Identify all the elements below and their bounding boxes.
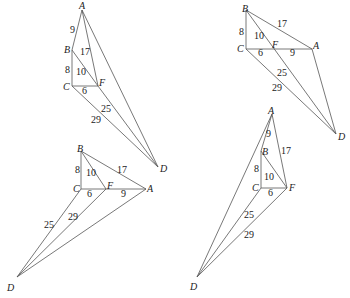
point-label-B: B bbox=[77, 143, 83, 154]
segment-AD bbox=[82, 10, 158, 167]
length-label: 8 bbox=[75, 164, 80, 175]
point-label-D: D bbox=[6, 282, 15, 293]
point-label-F: F bbox=[106, 180, 114, 191]
segment-BD bbox=[246, 10, 336, 134]
segment-FD bbox=[197, 188, 287, 277]
length-label: 9 bbox=[290, 47, 295, 58]
point-label-D: D bbox=[159, 163, 168, 174]
segment-AD bbox=[312, 49, 336, 134]
length-label: 8 bbox=[239, 26, 244, 37]
segment-CD bbox=[246, 49, 336, 134]
length-label: 29 bbox=[68, 211, 78, 222]
length-label: 10 bbox=[254, 30, 264, 41]
figure-bottom-right: ABCFD91781062529 bbox=[189, 105, 296, 292]
segment-CD bbox=[72, 86, 158, 167]
length-label: 25 bbox=[101, 103, 111, 114]
length-label: 25 bbox=[277, 67, 287, 78]
length-label: 17 bbox=[80, 46, 90, 57]
point-label-C: C bbox=[252, 182, 259, 193]
length-label: 17 bbox=[277, 18, 287, 29]
length-label: 25 bbox=[244, 209, 254, 220]
length-label: 29 bbox=[244, 229, 254, 240]
figure-bottom-left: BCFAD81710692925 bbox=[6, 143, 154, 293]
segment-AD bbox=[17, 189, 146, 277]
segment-CD bbox=[17, 189, 81, 277]
point-label-D: D bbox=[189, 281, 198, 292]
segment-AD bbox=[197, 114, 272, 277]
length-label: 17 bbox=[117, 164, 127, 175]
point-label-B: B bbox=[64, 44, 70, 55]
length-label: 8 bbox=[254, 163, 259, 174]
point-label-F: F bbox=[271, 39, 279, 50]
point-label-A: A bbox=[312, 40, 320, 51]
point-label-A: A bbox=[146, 183, 154, 194]
length-label: 6 bbox=[87, 188, 92, 199]
segment-FD bbox=[98, 86, 158, 167]
length-label: 6 bbox=[258, 47, 263, 58]
length-label: 29 bbox=[272, 82, 282, 93]
length-label: 10 bbox=[264, 171, 274, 182]
point-label-C: C bbox=[63, 81, 70, 92]
point-label-B: B bbox=[262, 146, 268, 157]
length-label: 17 bbox=[281, 145, 291, 156]
length-label: 6 bbox=[82, 85, 87, 96]
length-label: 8 bbox=[65, 64, 70, 75]
length-label: 6 bbox=[268, 187, 273, 198]
segment-FD bbox=[17, 189, 106, 277]
length-label: 10 bbox=[76, 66, 86, 77]
point-label-C: C bbox=[237, 43, 244, 54]
point-label-C: C bbox=[73, 183, 80, 194]
length-label: 25 bbox=[44, 219, 54, 230]
geometry-diagram: ABCFD91781062529 BCFAD17810692529 BCFAD8… bbox=[0, 0, 350, 298]
point-label-A: A bbox=[78, 0, 86, 11]
length-label: 9 bbox=[70, 24, 75, 35]
point-label-F: F bbox=[98, 77, 106, 88]
point-label-F: F bbox=[288, 182, 296, 193]
length-label: 9 bbox=[121, 188, 126, 199]
point-label-D: D bbox=[337, 131, 346, 142]
figure-top-right: BCFAD17810692529 bbox=[237, 3, 346, 142]
length-label: 10 bbox=[86, 167, 96, 178]
point-label-B: B bbox=[242, 3, 248, 14]
length-label: 9 bbox=[266, 128, 271, 139]
length-label: 29 bbox=[91, 114, 101, 125]
point-label-A: A bbox=[267, 105, 275, 116]
